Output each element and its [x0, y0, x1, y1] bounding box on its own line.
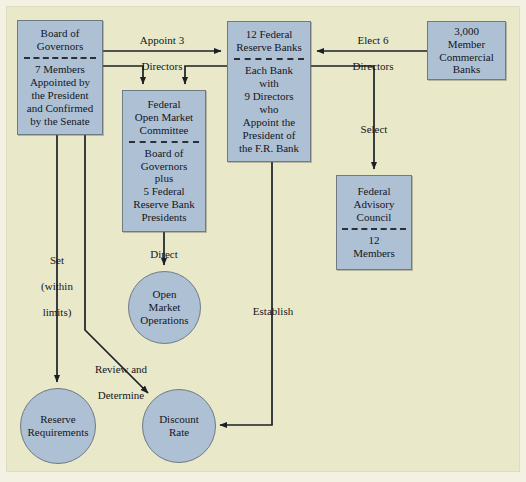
node-title-line: 3,000: [454, 25, 479, 38]
node-federal-reserve-banks-body: Each Bank with 9 Directors who Appoint t…: [239, 64, 299, 155]
node-title-line: Council: [357, 211, 392, 224]
edge-label-set-within-limits: Set (within limits): [24, 241, 90, 332]
edge-label-appoint-3-directors: Appoint 3 Directors: [120, 21, 204, 86]
node-federal-reserve-banks-title: 12 Federal Reserve Banks: [236, 28, 302, 54]
node-body-line: Presidents: [141, 211, 186, 224]
edge-label-line: Select: [337, 123, 411, 136]
node-title-line: Market: [149, 301, 181, 314]
node-fomc[interactable]: Federal Open Market Committee Board of G…: [122, 90, 206, 232]
node-federal-advisory-council-title: Federal Advisory Council: [354, 185, 395, 224]
edge-label-line: Elect 6: [333, 34, 413, 47]
edge-label-establish: Establish: [238, 292, 308, 331]
edge-label-select: Select: [337, 110, 411, 149]
edge-label-line: Establish: [238, 305, 308, 318]
edge-label-line: Set: [24, 254, 90, 267]
node-title-line: Advisory: [354, 198, 395, 211]
node-title-line: Requirements: [27, 426, 88, 439]
edge-label-line: Directors: [120, 60, 204, 73]
node-divider: [129, 141, 200, 143]
node-body-line: Reserve Bank: [133, 198, 194, 211]
node-divider: [342, 228, 406, 230]
node-body-line: 5 Federal: [143, 185, 184, 198]
node-body-line: Each Bank: [245, 64, 293, 77]
node-title-line: Open Market: [135, 111, 193, 124]
node-body-line: President of: [243, 129, 296, 142]
node-board-of-governors-title: Board of Governors: [37, 27, 83, 53]
node-fomc-title: Federal Open Market Committee: [135, 98, 193, 137]
edge-label-line: Review and: [77, 363, 165, 376]
edge-label-line: Direct: [129, 248, 199, 261]
node-divider: [234, 58, 305, 60]
node-body-line: by the Senate: [30, 115, 89, 128]
node-body-line: with: [259, 77, 279, 90]
node-title-line: Member: [448, 38, 485, 51]
edge-label-line: Directors: [333, 60, 413, 73]
node-title-line: Reserve Banks: [236, 41, 302, 54]
edge-label-elect-6-directors: Elect 6 Directors: [333, 21, 413, 86]
node-title-line: Rate: [169, 426, 189, 439]
node-member-commercial-banks[interactable]: 3,000 Member Commercial Banks: [427, 21, 506, 80]
node-body-line: 7 Members: [35, 63, 85, 76]
node-title-line: Federal: [148, 98, 181, 111]
edge-label-direct: Direct: [129, 235, 199, 274]
edge-label-line: (within: [24, 280, 90, 293]
node-member-commercial-banks-title: 3,000 Member Commercial Banks: [439, 25, 493, 77]
node-title-line: Reserve: [40, 413, 75, 426]
node-body-line: 9 Directors: [244, 90, 293, 103]
node-body-line: who: [260, 103, 279, 116]
diagram-root: Board of Governors 7 Members Appointed b…: [0, 0, 526, 482]
node-title-line: Discount: [159, 413, 199, 426]
node-body-line: Members: [353, 247, 395, 260]
node-body-line: Board of: [145, 147, 184, 160]
node-title-line: Commercial: [439, 51, 493, 64]
node-title-line: Banks: [453, 63, 481, 76]
node-body-line: and Confirmed: [27, 102, 93, 115]
node-body-line: the F.R. Bank: [239, 142, 299, 155]
node-body-line: plus: [155, 172, 173, 185]
node-title-line: Federal: [358, 185, 391, 198]
node-body-line: Appointed by: [30, 76, 90, 89]
node-title-line: 12 Federal: [246, 28, 293, 41]
node-divider: [24, 57, 96, 59]
edge-label-line: Appoint 3: [120, 34, 204, 47]
node-body-line: 12: [368, 234, 379, 247]
node-fomc-body: Board of Governors plus 5 Federal Reserv…: [133, 147, 194, 225]
node-body-line: Governors: [141, 160, 187, 173]
node-board-of-governors[interactable]: Board of Governors 7 Members Appointed b…: [17, 20, 103, 135]
node-board-of-governors-body: 7 Members Appointed by the President and…: [27, 63, 93, 128]
node-body-line: Appoint the: [243, 116, 295, 129]
node-title-line: Open: [153, 288, 177, 301]
node-open-market-operations[interactable]: Open Market Operations: [128, 271, 201, 344]
node-federal-advisory-council[interactable]: Federal Advisory Council 12 Members: [336, 175, 412, 270]
node-federal-advisory-council-body: 12 Members: [353, 234, 395, 260]
edge-label-line: Determine: [77, 389, 165, 402]
node-body-line: the President: [31, 89, 88, 102]
node-title-line: Committee: [140, 124, 189, 137]
edge-label-review-and-determine: Review and Determine: [77, 350, 165, 415]
edge-label-line: limits): [24, 306, 90, 319]
node-title-line: Governors: [37, 40, 83, 53]
node-title-line: Board of: [41, 27, 80, 40]
node-federal-reserve-banks[interactable]: 12 Federal Reserve Banks Each Bank with …: [227, 21, 311, 162]
node-title-line: Operations: [140, 314, 188, 327]
